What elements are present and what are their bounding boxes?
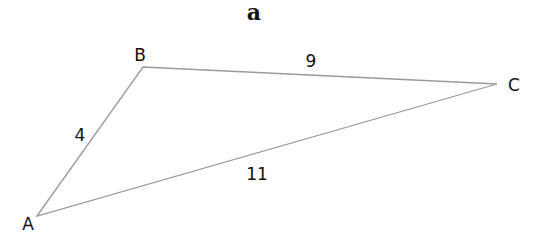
triangle-abc bbox=[37, 67, 497, 216]
triangle-diagram: a A B C 4 9 11 bbox=[0, 0, 537, 245]
vertex-label-b: B bbox=[134, 45, 146, 65]
side-length-ac: 11 bbox=[246, 164, 268, 184]
figure-label: a bbox=[247, 0, 261, 25]
side-length-ab: 4 bbox=[75, 125, 86, 145]
vertex-label-c: C bbox=[508, 75, 520, 95]
vertex-label-a: A bbox=[22, 214, 34, 234]
side-length-bc: 9 bbox=[306, 51, 317, 71]
